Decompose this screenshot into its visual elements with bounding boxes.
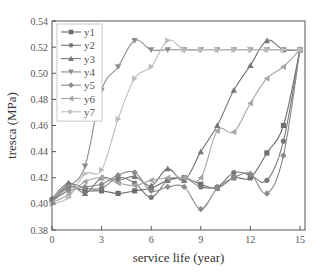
legend-box [57, 24, 102, 121]
legend-label: y7 [84, 106, 96, 118]
square-marker-icon [132, 188, 137, 193]
y-tick-label: 0.38 [31, 225, 49, 236]
legend-label: y5 [84, 79, 96, 91]
circle-marker-icon [281, 139, 286, 144]
x-tick-label: 12 [245, 234, 255, 245]
x-tick-label: 9 [198, 234, 203, 245]
triangle-down-marker-icon [82, 163, 88, 169]
legend: y1y2y3y4y5y6y7 [57, 24, 102, 121]
triangle-right-marker-icon [165, 37, 171, 43]
circle-marker-icon [69, 43, 74, 48]
y-tick-label: 0.48 [31, 94, 49, 105]
triangle-up-marker-icon [231, 87, 237, 93]
circle-marker-icon [264, 178, 269, 183]
line-chart: 03691215 0.380.400.420.440.460.480.500.5… [0, 0, 321, 277]
y-tick-label: 0.46 [31, 120, 49, 131]
triangle-up-marker-icon [214, 122, 220, 128]
triangle-left-marker-icon [214, 128, 220, 134]
legend-label: y3 [84, 53, 96, 65]
triangle-left-marker-icon [82, 178, 88, 184]
y-tick-label: 0.40 [31, 198, 49, 209]
diamond-marker-icon [165, 184, 171, 190]
square-marker-icon [116, 191, 121, 196]
triangle-right-marker-icon [83, 171, 89, 177]
triangle-right-marker-icon [99, 167, 105, 173]
triangle-left-marker-icon [148, 177, 154, 183]
triangle-right-marker-icon [149, 64, 155, 70]
x-tick-label: 6 [149, 234, 154, 245]
diamond-marker-icon [198, 206, 204, 212]
square-marker-icon [264, 150, 269, 155]
legend-label: y1 [84, 26, 95, 38]
diamond-marker-icon [280, 152, 286, 158]
legend-label: y6 [84, 93, 96, 105]
x-tick-label: 3 [99, 234, 104, 245]
y-tick-label: 0.42 [31, 172, 49, 183]
y-tick-label: 0.50 [31, 68, 49, 79]
square-marker-icon [281, 123, 286, 128]
circle-marker-icon [231, 170, 236, 175]
circle-marker-icon [198, 184, 203, 189]
circle-marker-icon [149, 195, 154, 200]
y-tick-label: 0.44 [31, 146, 49, 157]
y-tick-label: 0.54 [31, 16, 49, 27]
triangle-up-marker-icon [198, 148, 204, 154]
triangle-left-marker-icon [231, 129, 237, 135]
x-axis: 03691215 [50, 226, 305, 245]
triangle-up-marker-icon [165, 165, 171, 171]
triangle-up-marker-icon [247, 62, 253, 68]
x-tick-label: 15 [295, 234, 305, 245]
square-marker-icon [69, 30, 74, 35]
x-tick-label: 0 [50, 234, 55, 245]
legend-label: y2 [84, 39, 95, 51]
y-axis-title: tresca (MPa) [4, 92, 19, 159]
y-tick-label: 0.52 [31, 42, 49, 53]
legend-label: y4 [84, 66, 96, 78]
x-axis-title: service life (year) [133, 250, 225, 265]
triangle-left-marker-icon [247, 100, 253, 106]
